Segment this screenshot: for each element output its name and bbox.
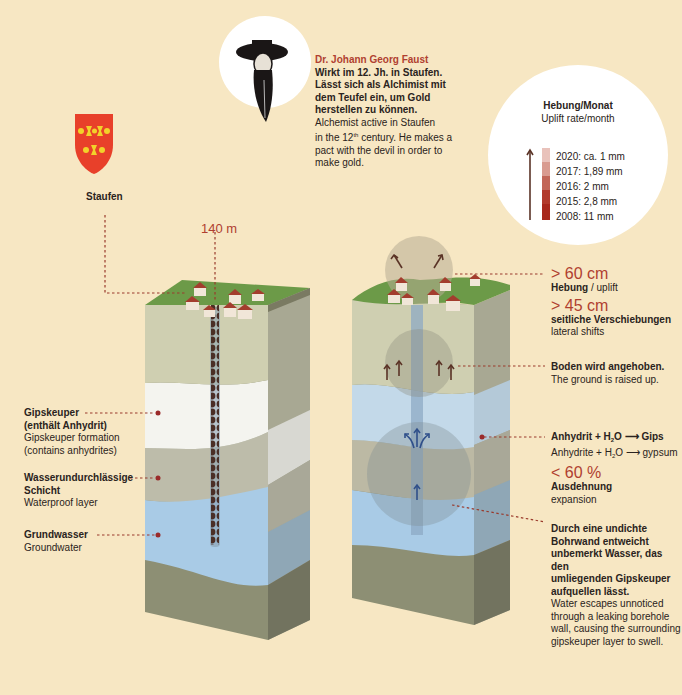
uplift-title: Hebung/Monat Uplift rate/month bbox=[528, 100, 628, 125]
label-uplift: > 60 cm Hebung / uplift > 45 cm seitlich… bbox=[551, 265, 671, 339]
coat-of-arms-icon bbox=[75, 114, 113, 174]
faust-name: Dr. Johann Georg Faust bbox=[315, 54, 490, 67]
left-block bbox=[145, 280, 310, 640]
label-reaction: Anhydrit + H2O ⟶ Gips Anhydrite + H2O ⟶ … bbox=[551, 431, 678, 506]
label-ground-raised: Boden wird angehoben. The ground is rais… bbox=[551, 361, 664, 386]
label-waterproof: Wasserundurchlässige Schicht Waterproof … bbox=[24, 472, 133, 510]
label-gipskeuper: Gipskeuper (enthält Anhydrit) Gipskeuper… bbox=[24, 407, 120, 457]
uplift-legend: 2020: ca. 1 mm 2017: 1,89 mm 2016: 2 mm … bbox=[556, 149, 625, 224]
label-groundwater: Grundwasser Groundwater bbox=[24, 529, 88, 554]
faust-caption: Dr. Johann Georg Faust Wirkt im 12. Jh. … bbox=[315, 54, 490, 170]
label-leak: Durch eine undichte Bohrwand entweicht u… bbox=[551, 523, 682, 648]
town-label: Staufen bbox=[86, 191, 123, 204]
faust-portrait-icon bbox=[219, 16, 311, 122]
depth-label: 140 m bbox=[201, 221, 237, 236]
